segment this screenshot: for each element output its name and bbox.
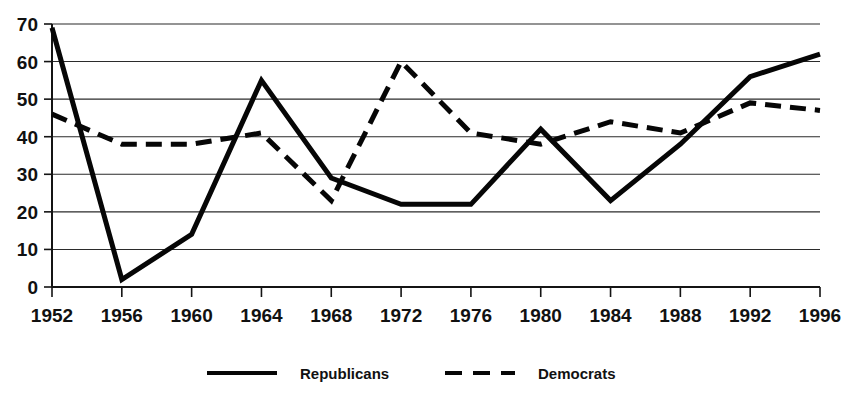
- x-tick-label: 1956: [101, 305, 143, 326]
- y-axis-tick-labels: 010203040506070: [17, 14, 38, 298]
- series-lines: [52, 28, 820, 280]
- y-tick-label: 20: [17, 202, 38, 223]
- x-tick-label: 1960: [170, 305, 212, 326]
- x-tick-label: 1996: [799, 305, 841, 326]
- series-line-democrats: [52, 62, 820, 201]
- x-tick-label: 1988: [659, 305, 701, 326]
- series-line-republicans: [52, 28, 820, 280]
- chart-canvas: 010203040506070 195219561960196419681972…: [0, 0, 850, 407]
- line-chart: 010203040506070 195219561960196419681972…: [0, 0, 850, 407]
- gridlines: [52, 24, 820, 249]
- x-tick-label: 1952: [31, 305, 73, 326]
- y-tick-label: 60: [17, 52, 38, 73]
- x-tick-label: 1984: [589, 305, 632, 326]
- x-tick-label: 1980: [520, 305, 562, 326]
- legend-label-democrats: Democrats: [538, 365, 616, 382]
- x-axis-tick-labels: 1952195619601964196819721976198019841988…: [31, 305, 841, 326]
- x-tick-label: 1972: [380, 305, 422, 326]
- y-tick-label: 0: [27, 277, 38, 298]
- y-axis-ticks: [44, 24, 52, 287]
- y-tick-label: 70: [17, 14, 38, 35]
- y-tick-label: 10: [17, 239, 38, 260]
- x-tick-label: 1992: [729, 305, 771, 326]
- y-tick-label: 50: [17, 89, 38, 110]
- legend-label-republicans: Republicans: [300, 365, 389, 382]
- x-axis-ticks: [52, 287, 820, 297]
- x-tick-label: 1968: [310, 305, 352, 326]
- y-tick-label: 30: [17, 164, 38, 185]
- x-tick-label: 1964: [240, 305, 283, 326]
- chart-legend: Republicans Democrats: [207, 365, 616, 382]
- y-tick-label: 40: [17, 127, 38, 148]
- x-tick-label: 1976: [450, 305, 492, 326]
